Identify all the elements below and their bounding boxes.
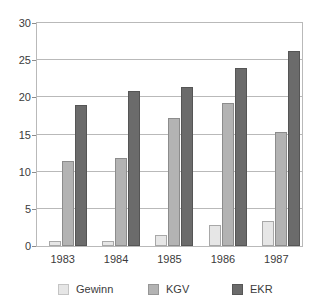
- x-axis: 19831984198519861987: [36, 252, 303, 268]
- bar: [235, 68, 247, 246]
- y-tick-label-10: 10: [1, 167, 31, 178]
- legend-item-gewinn[interactable]: Gewinn: [58, 282, 113, 296]
- y-tick-label-20: 20: [1, 92, 31, 103]
- bar: [222, 103, 234, 246]
- x-tick-label-1984: 1984: [89, 252, 142, 266]
- bar: [155, 235, 167, 246]
- bar: [262, 221, 274, 246]
- y-tick-mark-5: [32, 209, 36, 210]
- bar: [288, 51, 300, 246]
- y-axis: 051015202530: [0, 22, 31, 247]
- y-tick-mark-20: [32, 97, 36, 98]
- bar: [275, 132, 287, 246]
- legend-label: Gewinn: [76, 283, 113, 295]
- bar-group: [144, 23, 197, 246]
- bar-group: [90, 23, 143, 246]
- chart-legend: GewinnKGVEKR: [36, 282, 303, 298]
- y-tick-mark-15: [32, 135, 36, 136]
- bar: [181, 87, 193, 246]
- y-tick-label-15: 15: [1, 130, 31, 141]
- bar: [62, 161, 74, 246]
- y-tick-mark-10: [32, 172, 36, 173]
- legend-swatch-icon: [232, 284, 243, 295]
- legend-label: KGV: [166, 283, 189, 295]
- legend-swatch-icon: [58, 284, 69, 295]
- x-tick-label-1985: 1985: [143, 252, 196, 266]
- bar-group: [37, 23, 90, 246]
- y-tick-mark-30: [32, 23, 36, 24]
- bar: [168, 118, 180, 246]
- legend-label: EKR: [250, 283, 273, 295]
- bar: [128, 91, 140, 246]
- y-tick-label-0: 0: [1, 241, 31, 252]
- bars-layer: [37, 23, 302, 246]
- bar-group: [251, 23, 304, 246]
- bar: [115, 158, 127, 246]
- bar-group: [197, 23, 250, 246]
- y-tick-mark-0: [32, 246, 36, 247]
- bar: [209, 225, 221, 246]
- y-tick-label-25: 25: [1, 55, 31, 66]
- legend-swatch-icon: [148, 284, 159, 295]
- y-tick-mark-25: [32, 60, 36, 61]
- bar: [102, 241, 114, 246]
- y-tick-label-5: 5: [1, 204, 31, 215]
- x-tick-label-1986: 1986: [196, 252, 249, 266]
- x-tick-label-1983: 1983: [36, 252, 89, 266]
- legend-item-kgv[interactable]: KGV: [148, 282, 189, 296]
- legend-item-ekr[interactable]: EKR: [232, 282, 273, 296]
- bar-chart: 051015202530 19831984198519861987 Gewinn…: [0, 0, 315, 308]
- x-tick-label-1987: 1987: [250, 252, 303, 266]
- bar: [75, 105, 87, 246]
- y-tick-label-30: 30: [1, 18, 31, 29]
- bar: [49, 241, 61, 246]
